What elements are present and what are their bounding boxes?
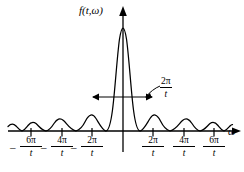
tick-denominator-neg-2pi-t: t [81, 148, 103, 159]
tick-minus-neg-6pi-t: – [10, 142, 16, 153]
tick-denominator-pos-2pi-t: t [142, 148, 164, 159]
tick-numerator-pos-6pi-t: 6π [203, 135, 225, 146]
width-leader-line [145, 86, 160, 98]
tick-numerator-neg-6pi-t: 6π [20, 135, 42, 146]
sinc-curve [8, 28, 233, 131]
tick-label-neg-2pi-t: 2πt [81, 135, 103, 159]
tick-label-neg-6pi-t: 6πt [20, 135, 42, 159]
tick-minus-neg-2pi-t: – [71, 142, 77, 153]
y-axis-label: f(t,ω) [79, 5, 103, 16]
tick-label-neg-4pi-t: 4πt [51, 135, 73, 159]
tick-denominator-neg-4pi-t: t [51, 148, 73, 159]
tick-numerator-neg-4pi-t: 4π [51, 135, 73, 146]
tick-denominator-neg-6pi-t: t [20, 148, 42, 159]
tick-numerator-neg-2pi-t: 2π [81, 135, 103, 146]
tick-label-pos-2pi-t: 2πt [142, 135, 164, 159]
width-annotation-numerator: 2π [160, 76, 172, 87]
tick-denominator-pos-6pi-t: t [203, 148, 225, 159]
tick-label-pos-6pi-t: 6πt [203, 135, 225, 159]
width-arrow-head-left [92, 94, 99, 101]
tick-numerator-pos-2pi-t: 2π [142, 135, 164, 146]
width-annotation: 2π t [160, 76, 172, 100]
width-annotation-denominator: t [160, 89, 172, 100]
tick-label-pos-4pi-t: 4πt [173, 135, 195, 159]
tick-minus-neg-4pi-t: – [41, 142, 47, 153]
y-axis-arrowhead [119, 6, 127, 16]
x-axis-label: ω [228, 127, 235, 137]
tick-denominator-pos-4pi-t: t [173, 148, 195, 159]
tick-numerator-pos-4pi-t: 4π [173, 135, 195, 146]
sinc-spectrum-figure: f(t,ω) ω 2π t –6πt–4πt–2πt2πt4πt6πt [0, 0, 244, 172]
